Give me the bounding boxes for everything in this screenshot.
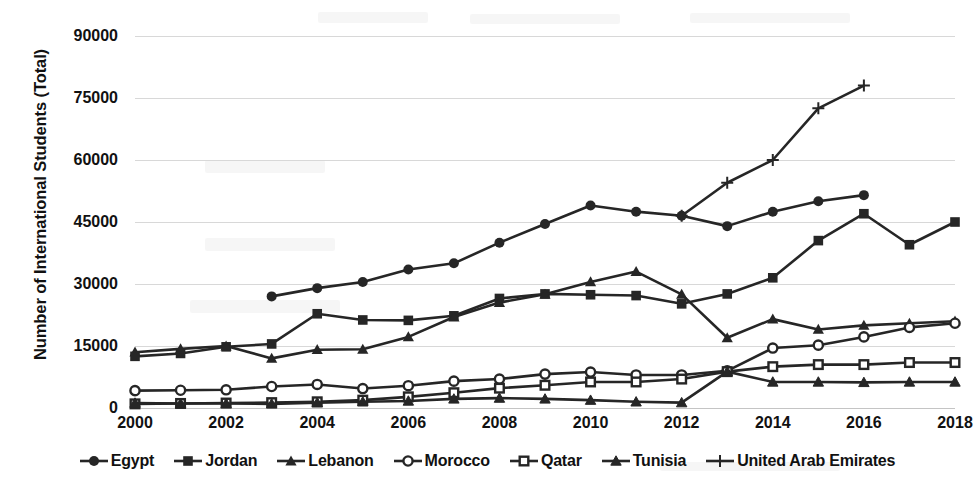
x-tick-label: 2010 — [573, 414, 609, 432]
data-point-filled-triangle — [767, 314, 778, 324]
x-axis-tick-labels: 2000200220042006200820102012201420162018 — [135, 414, 955, 440]
data-point-open-square — [860, 360, 869, 369]
y-tick-label: 30000 — [74, 275, 119, 293]
data-point-open-square — [520, 457, 529, 466]
series-lebanon — [129, 266, 960, 363]
x-tick-label: 2018 — [937, 414, 973, 432]
x-tick-label: 2006 — [391, 414, 427, 432]
data-point-filled-square — [586, 290, 596, 300]
data-point-open-circle — [495, 374, 504, 383]
legend-item-united-arab-emirates[interactable]: United Arab Emirates — [705, 452, 895, 470]
x-tick-label: 2002 — [208, 414, 244, 432]
data-point-filled-square — [267, 339, 277, 349]
legend-item-tunisia[interactable]: Tunisia — [601, 452, 686, 470]
data-point-open-square — [951, 358, 960, 367]
data-point-filled-square — [312, 309, 322, 319]
data-point-filled-square — [404, 316, 414, 326]
filled-triangle-icon — [276, 453, 306, 469]
x-tick-label: 2004 — [299, 414, 335, 432]
y-tick-label: 75000 — [74, 89, 119, 107]
x-tick-label: 2000 — [117, 414, 153, 432]
open-circle-icon — [393, 453, 423, 469]
data-point-open-circle — [222, 385, 231, 394]
plus-icon — [705, 453, 735, 469]
data-point-filled-square — [358, 315, 368, 325]
legend-item-label: Tunisia — [633, 452, 686, 470]
data-point-filled-circle — [813, 196, 823, 206]
data-point-filled-square — [722, 289, 732, 299]
data-point-filled-circle — [403, 265, 413, 275]
data-point-filled-circle — [859, 190, 869, 200]
data-point-filled-square — [677, 299, 687, 309]
y-tick-label: 45000 — [74, 213, 119, 231]
data-point-filled-circle — [312, 283, 322, 293]
legend-item-qatar[interactable]: Qatar — [509, 452, 582, 470]
x-tick-label: 2012 — [664, 414, 700, 432]
filled-square-icon — [173, 453, 203, 469]
open-square-icon — [509, 453, 539, 469]
legend-item-label: Qatar — [541, 452, 582, 470]
data-point-filled-circle — [631, 207, 641, 217]
x-tick-label: 2008 — [482, 414, 518, 432]
data-point-filled-square — [768, 273, 778, 283]
data-point-open-circle — [768, 343, 777, 352]
data-point-open-square — [541, 381, 550, 390]
data-point-open-square — [495, 384, 504, 393]
data-point-filled-circle — [722, 221, 732, 231]
y-tick-label: 60000 — [74, 151, 119, 169]
data-point-filled-circle — [586, 200, 596, 210]
legend-item-jordan[interactable]: Jordan — [173, 452, 257, 470]
legend-item-label: Jordan — [205, 452, 257, 470]
data-point-open-circle — [403, 456, 412, 465]
data-point-open-circle — [950, 319, 959, 328]
series-jordan — [130, 209, 960, 361]
data-point-filled-square — [814, 236, 824, 246]
y-axis-tick-labels: 0150003000045000600007500090000 — [0, 0, 130, 493]
scan-artifact — [690, 13, 850, 23]
data-point-filled-circle — [768, 207, 778, 217]
data-point-open-square — [768, 362, 777, 371]
data-point-filled-circle — [267, 291, 277, 301]
data-point-filled-circle — [358, 277, 368, 287]
plot-area — [135, 36, 955, 408]
data-point-open-square — [905, 358, 914, 367]
legend-item-lebanon[interactable]: Lebanon — [276, 452, 373, 470]
legend-item-egypt[interactable]: Egypt — [79, 452, 154, 470]
gridline — [135, 408, 955, 409]
data-point-filled-square — [631, 291, 641, 301]
data-point-open-circle — [176, 386, 185, 395]
data-point-open-circle — [449, 377, 458, 386]
scan-artifact — [318, 12, 428, 23]
data-point-open-circle — [130, 386, 139, 395]
data-point-open-circle — [313, 380, 322, 389]
series-egypt — [267, 190, 869, 301]
legend-item-label: Lebanon — [308, 452, 373, 470]
legend-item-label: Egypt — [111, 452, 154, 470]
filled-circle-icon — [79, 453, 109, 469]
x-tick-label: 2016 — [846, 414, 882, 432]
data-point-filled-triangle — [631, 266, 642, 276]
data-point-filled-square — [183, 456, 193, 466]
data-point-open-square — [677, 375, 686, 384]
series-united-arab-emirates — [676, 80, 870, 222]
legend-item-morocco[interactable]: Morocco — [393, 452, 490, 470]
data-point-open-circle — [586, 367, 595, 376]
data-point-open-circle — [859, 332, 868, 341]
scan-artifact — [470, 14, 620, 24]
data-point-open-circle — [540, 370, 549, 379]
data-point-filled-circle — [494, 238, 504, 248]
data-point-filled-square — [859, 209, 869, 219]
data-point-open-circle — [358, 384, 367, 393]
y-tick-label: 15000 — [74, 337, 119, 355]
data-point-open-square — [586, 378, 595, 387]
x-tick-label: 2014 — [755, 414, 791, 432]
data-point-open-square — [814, 360, 823, 369]
data-point-open-circle — [404, 381, 413, 390]
legend-item-label: United Arab Emirates — [737, 452, 895, 470]
series-layer — [135, 36, 955, 408]
data-point-filled-square — [950, 217, 960, 227]
y-tick-label: 90000 — [74, 27, 119, 45]
data-point-filled-square — [905, 240, 915, 250]
data-point-open-circle — [814, 341, 823, 350]
filled-triangle-small-icon — [601, 453, 631, 469]
